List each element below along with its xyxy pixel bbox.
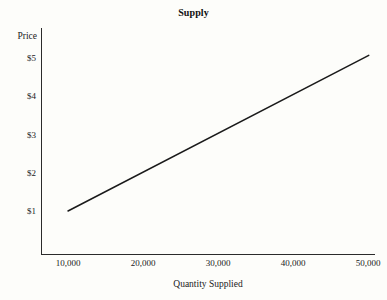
x-tick-label: 40,000 [263,258,323,268]
x-tick-label: 20,000 [113,258,173,268]
supply-line [68,55,369,211]
x-tick-label: 30,000 [188,258,248,268]
x-axis-line [41,254,375,255]
x-axis-title: Quantity Supplied [41,279,375,289]
chart-title: Supply [0,7,387,18]
supply-curve-figure: Supply Price Quantity Supplied $1$2$3$4$… [0,0,387,300]
x-tick-label: 50,000 [338,258,387,268]
y-tick-label: $1 [2,206,36,216]
y-tick-label: $3 [2,130,36,140]
x-tick-label: 10,000 [38,258,98,268]
supply-line-layer [0,0,387,300]
y-tick-label: $4 [2,91,36,101]
y-tick-label: $5 [2,53,36,63]
y-axis-line [41,28,42,255]
y-axis-title: Price [0,31,37,41]
y-tick-label: $2 [2,168,36,178]
